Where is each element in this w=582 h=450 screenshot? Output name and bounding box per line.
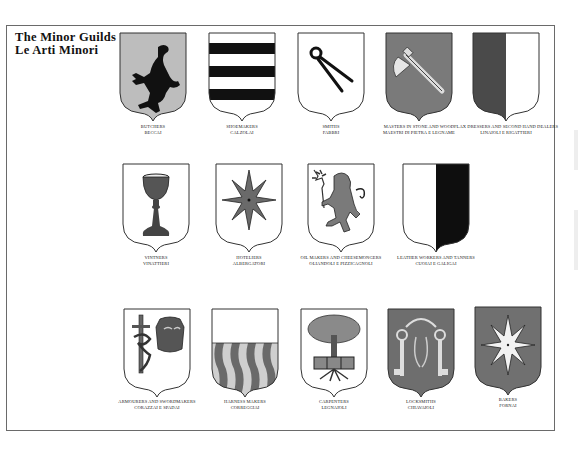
shield-vintners	[121, 162, 191, 254]
shield-harness-makers	[210, 307, 280, 399]
horizontal-bars-icon	[207, 31, 277, 123]
shield-shoemakers	[207, 31, 277, 123]
shield-flax-dressers	[471, 31, 541, 123]
shield-oil-makers	[306, 162, 376, 254]
guild-label: Leather Workers and TannersCuoiai e Gali…	[361, 255, 511, 266]
pincers-icon	[296, 31, 366, 123]
shield-masters-stone-wood	[384, 31, 454, 123]
sword-and-cuirass-icon	[122, 307, 192, 399]
party-per-pale-icon	[401, 162, 471, 254]
guild-label: BakersFornai	[433, 397, 582, 408]
guild-label: Flax Dressers and Second Hand DealersLin…	[431, 124, 581, 135]
shield-butchers	[118, 31, 188, 123]
tree-icon	[299, 307, 369, 399]
shield-locksmiths	[386, 307, 456, 399]
shield-armourers	[122, 307, 192, 399]
chalice-icon	[121, 162, 191, 254]
shield-hoteliers	[214, 162, 284, 254]
shield-leather-workers	[401, 162, 471, 254]
title-italian: Le Arti Minori	[15, 44, 116, 57]
margin-mark	[574, 210, 578, 270]
lion-with-olive-branch-icon	[306, 162, 376, 254]
page-title: The Minor Guilds Le Arti Minori	[15, 31, 116, 57]
wavy-pales-icon	[210, 307, 280, 399]
margin-mark	[574, 130, 578, 170]
eight-point-star-icon	[214, 162, 284, 254]
party-per-pale-icon	[471, 31, 541, 123]
rampant-goat-icon	[118, 31, 188, 123]
keys-icon	[386, 307, 456, 399]
axe-icon	[384, 31, 454, 123]
shield-carpenters	[299, 307, 369, 399]
white-star-icon	[473, 305, 543, 397]
shield-smiths	[296, 31, 366, 123]
shield-bakers	[473, 305, 543, 397]
